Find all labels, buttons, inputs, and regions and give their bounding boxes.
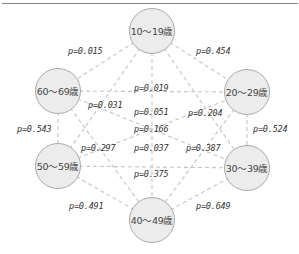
edge-label-60-50: p=0.543 [17,124,51,134]
edge-label-40-30: p=0.649 [196,201,230,211]
edge-label-50-40: p=0.491 [69,201,103,211]
edge-label-60-40: p=0.375 [134,169,168,179]
node-20-29: 20〜29歳 [224,69,270,115]
edge-label-60-20: p=0.019 [134,83,168,93]
edge-label-10-40: p=0.051 [134,107,168,117]
edge-label-10-20: p=0.454 [196,46,230,56]
edge-label-50-20: p=0.204 [188,108,222,118]
node-40-49: 40〜49歳 [129,197,175,243]
node-30-39: 30〜39歳 [224,145,270,191]
pairwise-comparison-diagram: p=0.015 p=0.454 p=0.019 p=0.031 p=0.051 … [0,0,299,254]
edge-label-10-30: p=0.387 [186,143,220,153]
edge-label-20-40: p=0.297 [81,143,115,153]
edge-label-10-60: p=0.015 [68,46,102,56]
edge-label-10-50: p=0.031 [88,100,122,110]
edge-label-60-30: p=0.166 [134,124,168,134]
edge-label-20-30: p=0.524 [253,124,287,134]
node-60-69: 60〜69歳 [35,68,81,114]
node-50-59: 50〜59歳 [35,143,81,189]
node-10-19: 10〜19歳 [129,8,175,54]
edge-label-50-30: p=0.037 [134,143,168,153]
